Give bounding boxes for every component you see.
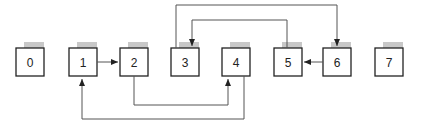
node-2: 2 [120,48,148,76]
node-6: 6 [323,48,351,76]
node-label: 4 [233,56,240,70]
node-label: 7 [386,56,393,70]
node-3: 3 [171,48,199,76]
edge-3-to-6 [176,5,337,48]
node-label: 2 [131,56,138,70]
node-label: 5 [285,56,292,70]
edge-2-to-4 [134,76,228,105]
node-4: 4 [222,48,250,76]
node-0: 0 [16,48,44,76]
node-label: 6 [334,56,341,70]
node-5: 5 [274,48,302,76]
node-label: 1 [80,56,87,70]
node-7: 7 [375,48,403,76]
diagram-svg: 01234567 [0,0,425,126]
linked-list-diagram: 01234567 [0,0,425,126]
node-label: 3 [182,56,189,70]
node-1: 1 [69,48,97,76]
edge-4-to-1 [82,76,244,119]
node-label: 0 [27,56,34,70]
